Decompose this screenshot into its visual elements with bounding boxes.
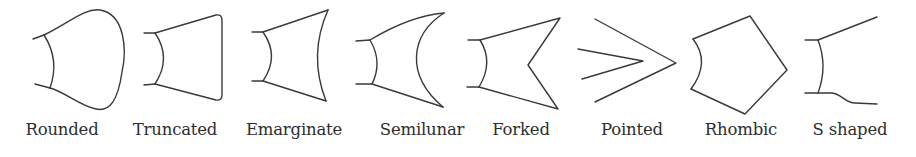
label-s-shaped: S shaped <box>813 120 888 139</box>
label-semilunar: Semilunar <box>380 120 464 139</box>
label-forked: Forked <box>492 120 550 139</box>
rounded-fin-shape <box>33 10 124 110</box>
label-rounded: Rounded <box>25 120 98 139</box>
semilunar-fin-shape <box>356 13 444 107</box>
fin-shapes-diagram: Rounded Truncated Emarginate Semilunar F… <box>0 0 916 157</box>
emarginate-fin-shape <box>252 10 328 101</box>
pointed-fin-shape <box>578 19 676 102</box>
label-pointed: Pointed <box>601 120 663 139</box>
truncated-fin-shape <box>144 15 222 100</box>
label-rhombic: Rhombic <box>705 120 777 139</box>
s-shaped-fin-shape <box>805 17 877 104</box>
shapes-canvas <box>0 0 916 120</box>
label-truncated: Truncated <box>133 120 217 139</box>
forked-fin-shape <box>467 18 560 109</box>
rhombic-fin-shape <box>691 16 787 114</box>
label-emarginate: Emarginate <box>246 120 342 139</box>
